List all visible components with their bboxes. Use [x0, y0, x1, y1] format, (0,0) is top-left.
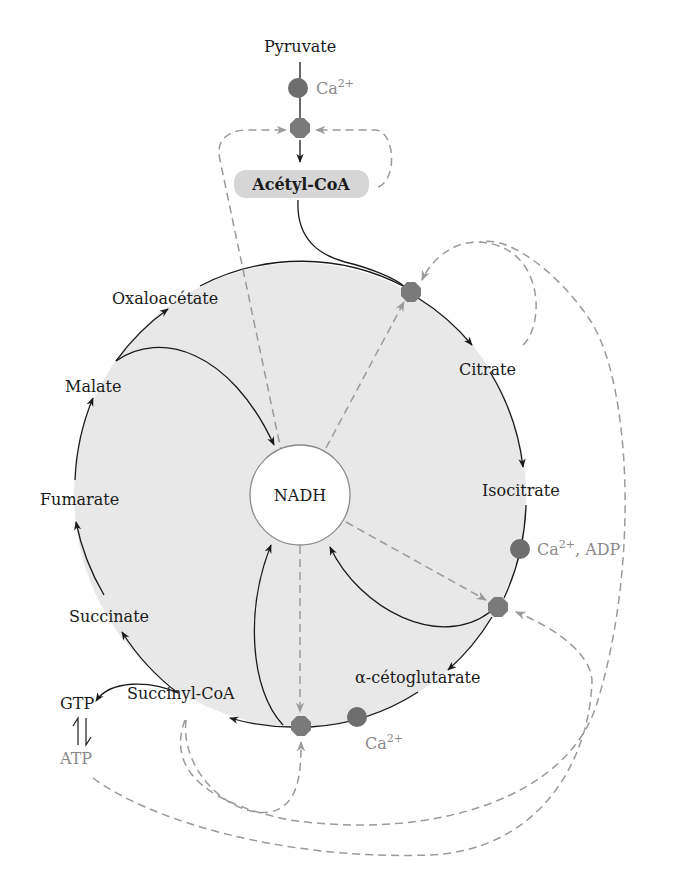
- activator-dot-idh: [510, 539, 530, 559]
- citric-acid-cycle-diagram: Acétyl-CoA Pyruvate Ca2+ NADH: [0, 0, 677, 879]
- pdh-octagon: [290, 118, 310, 138]
- activator-dot-akgdh: [347, 707, 367, 727]
- alpha-ketoglutarate-label: α-cétoglutarate: [355, 668, 480, 687]
- citrate-label: Citrate: [459, 360, 516, 379]
- succinate-label: Succinate: [69, 607, 149, 626]
- idh-activator-label: Ca2+, ADP: [537, 538, 621, 559]
- malate-label: Malate: [65, 377, 121, 396]
- nadh-label: NADH: [274, 486, 326, 505]
- idh-octagon: [488, 597, 508, 617]
- atp-label: ATP: [59, 749, 92, 768]
- oxaloacetate-label: Oxaloacétate: [112, 289, 218, 308]
- activator-dot-pdh: [288, 78, 308, 98]
- citrate-synthase-octagon: [401, 282, 421, 302]
- pdh-activator-label: Ca2+: [316, 77, 354, 98]
- gtp-atp-equilibrium-arrows: [73, 718, 91, 745]
- fumarate-label: Fumarate: [40, 490, 119, 509]
- akgdh-octagon: [291, 716, 311, 736]
- succinyl-coa-label: Succinyl-CoA: [127, 684, 235, 703]
- acetyl-coa-label: Acétyl-CoA: [251, 175, 350, 194]
- pyruvate-label: Pyruvate: [264, 37, 336, 56]
- isocitrate-label: Isocitrate: [482, 481, 560, 500]
- akgdh-activator-label: Ca2+: [365, 732, 403, 753]
- gtp-label: GTP: [60, 694, 94, 713]
